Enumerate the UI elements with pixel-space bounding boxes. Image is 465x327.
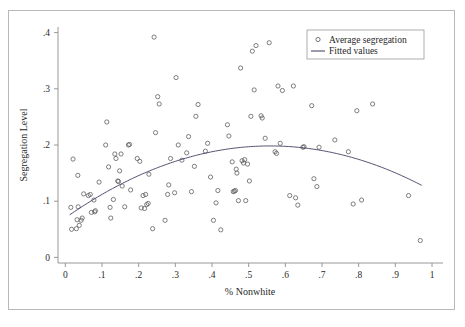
scatter-point <box>196 102 200 106</box>
scatter-point <box>254 43 258 47</box>
x-tick-label: .6 <box>282 270 289 280</box>
scatter-point <box>174 75 178 79</box>
x-axis-title: % Nonwhite <box>225 286 276 297</box>
scatter-point <box>75 218 79 222</box>
figure-container: 0.1.2.3.4 0.1.2.3.4.5.6.7.8.91 Segregati… <box>0 0 465 327</box>
scatter-plot: 0.1.2.3.4 0.1.2.3.4.5.6.7.8.91 Segregati… <box>0 0 465 327</box>
scatter-point <box>312 177 316 181</box>
scatter-point <box>147 172 151 176</box>
y-tick-label: .1 <box>43 196 50 206</box>
scatter-point <box>291 84 295 88</box>
scatter-point <box>108 205 112 209</box>
scatter-point <box>276 84 280 88</box>
scatter-point <box>333 138 337 142</box>
y-tick-label: 0 <box>45 253 50 263</box>
scatter-point <box>280 88 284 92</box>
scatter-point <box>355 109 359 113</box>
scatter-point <box>153 131 157 135</box>
scatter-point <box>234 167 238 171</box>
scatter-point <box>97 180 101 184</box>
scatter-point <box>346 150 350 154</box>
y-tick-label: .4 <box>43 28 50 38</box>
scatter-point <box>109 216 113 220</box>
scatter-point <box>278 141 282 145</box>
scatter-point <box>288 193 292 197</box>
x-tick-label: .5 <box>245 270 252 280</box>
scatter-point <box>214 201 218 205</box>
scatter-point <box>247 179 251 183</box>
scatter-point <box>166 192 170 196</box>
scatter-point <box>263 136 267 140</box>
scatter-point <box>69 227 73 231</box>
x-tick-label: .4 <box>208 270 215 280</box>
scatter-point <box>76 173 80 177</box>
scatter-point <box>152 35 156 39</box>
scatter-point <box>310 104 314 108</box>
scatter-point <box>141 193 145 197</box>
scatter-point <box>216 188 220 192</box>
x-tick-label: .3 <box>172 270 179 280</box>
scatter-point <box>123 205 127 209</box>
scatter-point <box>189 190 193 194</box>
scatter-point <box>211 218 215 222</box>
scatter-point <box>227 134 231 138</box>
scatter-point <box>406 193 410 197</box>
scatter-point <box>360 198 364 202</box>
scatter-points-group <box>69 35 423 243</box>
scatter-point <box>168 156 172 160</box>
scatter-point <box>163 218 167 222</box>
scatter-point <box>113 152 117 156</box>
legend-label-fitted-values: Fitted values <box>329 46 378 56</box>
scatter-point <box>157 102 161 106</box>
legend: Average segregation Fitted values <box>307 30 424 59</box>
x-tick-label: 1 <box>430 270 435 280</box>
x-tick-label: .1 <box>98 270 105 280</box>
scatter-point <box>107 165 111 169</box>
scatter-point <box>245 162 249 166</box>
scatter-point <box>69 205 73 209</box>
scatter-point <box>105 120 109 124</box>
y-tick-label: .3 <box>43 84 50 94</box>
scatter-point <box>296 203 300 207</box>
x-tick-label: .8 <box>355 270 362 280</box>
scatter-point <box>267 41 271 45</box>
scatter-point <box>77 223 81 227</box>
scatter-point <box>208 175 212 179</box>
scatter-point <box>236 199 240 203</box>
scatter-point <box>235 171 239 175</box>
scatter-point <box>119 152 123 156</box>
scatter-point <box>315 184 319 188</box>
scatter-point <box>294 196 298 200</box>
scatter-point <box>114 156 118 160</box>
y-tick-label: .2 <box>43 140 50 150</box>
scatter-point <box>111 197 115 201</box>
scatter-point <box>252 88 256 92</box>
scatter-point <box>118 169 122 173</box>
scatter-point <box>151 227 155 231</box>
scatter-point <box>71 157 75 161</box>
scatter-point <box>230 160 234 164</box>
scatter-point <box>144 192 148 196</box>
scatter-point <box>194 114 198 118</box>
x-tick-label: .2 <box>135 270 142 280</box>
scatter-point <box>250 49 254 53</box>
scatter-point <box>138 159 142 163</box>
scatter-point <box>206 141 210 145</box>
scatter-point <box>129 188 133 192</box>
scatter-point <box>185 151 189 155</box>
legend-label-average-segregation: Average segregation <box>329 35 407 45</box>
x-tick-label: 0 <box>63 270 68 280</box>
scatter-point <box>371 102 375 106</box>
scatter-point <box>239 66 243 70</box>
scatter-point <box>156 95 160 99</box>
scatter-point <box>244 199 248 203</box>
scatter-point <box>176 143 180 147</box>
scatter-point <box>225 123 229 127</box>
scatter-point <box>82 192 86 196</box>
fitted-values-curve <box>70 146 422 215</box>
y-axis-title: Segregation Level <box>18 108 29 181</box>
x-tick-label: .7 <box>318 270 325 280</box>
scatter-point <box>192 164 196 168</box>
scatter-point <box>418 238 422 242</box>
scatter-point <box>173 191 177 195</box>
